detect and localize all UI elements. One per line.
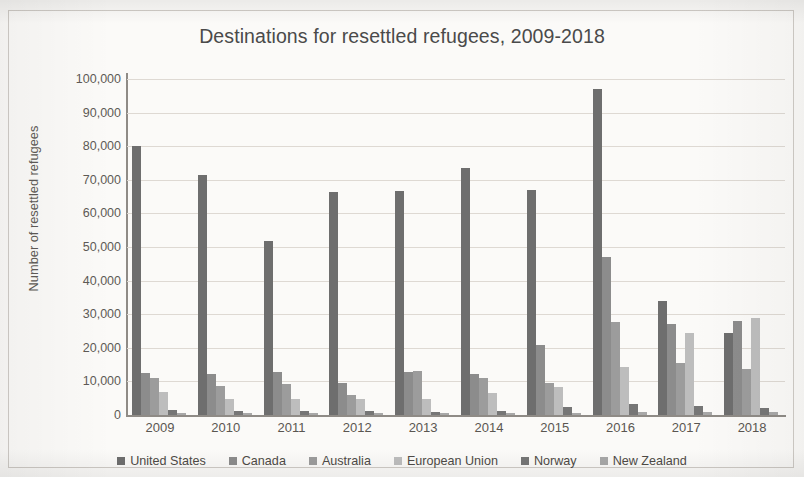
bar[interactable] xyxy=(593,89,602,415)
bar[interactable] xyxy=(536,345,545,415)
bar[interactable] xyxy=(488,393,497,415)
bar[interactable] xyxy=(629,404,638,415)
bar[interactable] xyxy=(703,412,712,415)
x-axis-tick-label: 2018 xyxy=(719,420,785,435)
y-axis-tick-labels: 100,00090,00080,00070,00060,00050,00040,… xyxy=(37,11,121,477)
legend-item[interactable]: Norway xyxy=(521,454,577,468)
bar[interactable] xyxy=(620,367,629,415)
bar[interactable] xyxy=(338,383,347,415)
bar[interactable] xyxy=(461,168,470,415)
bar[interactable] xyxy=(479,378,488,415)
bar[interactable] xyxy=(225,399,234,415)
bar[interactable] xyxy=(264,241,273,415)
x-axis-tick-label: 2010 xyxy=(193,420,259,435)
bar[interactable] xyxy=(751,318,760,415)
bar[interactable] xyxy=(563,407,572,415)
y-axis-tick-label: 100,000 xyxy=(41,72,121,86)
chart-legend: United StatesCanadaAustraliaEuropean Uni… xyxy=(9,454,795,468)
bar[interactable] xyxy=(356,399,365,415)
bar[interactable] xyxy=(760,408,769,415)
chart-frame: Destinations for resettled refugees, 200… xyxy=(8,10,794,468)
bar[interactable] xyxy=(141,373,150,415)
legend-label: United States xyxy=(130,454,206,468)
bar[interactable] xyxy=(365,411,374,415)
bar-group xyxy=(461,79,515,415)
legend-label: New Zealand xyxy=(613,454,687,468)
bar[interactable] xyxy=(273,372,282,415)
legend-item[interactable]: Canada xyxy=(229,454,286,468)
x-axis-tick-label: 2014 xyxy=(456,420,522,435)
bar[interactable] xyxy=(374,413,383,415)
legend-swatch-icon xyxy=(600,457,608,465)
bar[interactable] xyxy=(413,371,422,415)
bar[interactable] xyxy=(602,257,611,415)
bar[interactable] xyxy=(742,369,751,415)
y-axis-title: Number of resettled refugees xyxy=(26,84,41,334)
bar[interactable] xyxy=(769,412,778,415)
bar-group xyxy=(527,79,581,415)
bar[interactable] xyxy=(658,301,667,415)
plot-area xyxy=(127,79,785,415)
bar[interactable] xyxy=(506,413,515,415)
bar[interactable] xyxy=(440,413,449,415)
bar[interactable] xyxy=(431,412,440,415)
bar[interactable] xyxy=(395,191,404,415)
bar[interactable] xyxy=(300,411,309,415)
bar[interactable] xyxy=(404,372,413,415)
bar[interactable] xyxy=(282,384,291,415)
legend-label: Australia xyxy=(322,454,371,468)
x-axis-line xyxy=(126,415,786,417)
y-axis-tick-label: 10,000 xyxy=(41,374,121,388)
bar[interactable] xyxy=(207,374,216,415)
bar[interactable] xyxy=(554,387,563,415)
legend-item[interactable]: United States xyxy=(117,454,206,468)
bar[interactable] xyxy=(234,411,243,415)
bar[interactable] xyxy=(527,190,536,415)
bar[interactable] xyxy=(638,412,647,415)
legend-item[interactable]: Australia xyxy=(309,454,371,468)
bar[interactable] xyxy=(676,363,685,415)
bar[interactable] xyxy=(309,413,318,415)
legend-swatch-icon xyxy=(229,457,237,465)
bar-group xyxy=(198,79,252,415)
bar-group xyxy=(593,79,647,415)
bar[interactable] xyxy=(667,324,676,415)
y-axis-tick-label: 40,000 xyxy=(41,274,121,288)
x-axis-tick-label: 2017 xyxy=(653,420,719,435)
bar[interactable] xyxy=(243,413,252,415)
bar[interactable] xyxy=(347,395,356,415)
x-axis-tick-label: 2012 xyxy=(324,420,390,435)
bar[interactable] xyxy=(177,413,186,415)
x-axis-tick-label: 2011 xyxy=(259,420,325,435)
bar[interactable] xyxy=(329,192,338,415)
bar[interactable] xyxy=(685,333,694,415)
legend-item[interactable]: New Zealand xyxy=(600,454,687,468)
y-axis-tick-label: 20,000 xyxy=(41,341,121,355)
bar[interactable] xyxy=(198,175,207,415)
bar[interactable] xyxy=(159,392,168,415)
bar[interactable] xyxy=(611,322,620,415)
bar-group xyxy=(658,79,712,415)
bar[interactable] xyxy=(724,333,733,415)
bar[interactable] xyxy=(733,321,742,415)
legend-label: European Union xyxy=(407,454,498,468)
bar[interactable] xyxy=(422,399,431,415)
bar-group xyxy=(264,79,318,415)
legend-swatch-icon xyxy=(521,457,529,465)
y-axis-tick-label: 90,000 xyxy=(41,106,121,120)
y-axis-tick-label: 0 xyxy=(41,408,121,422)
bar[interactable] xyxy=(216,386,225,415)
legend-swatch-icon xyxy=(309,457,317,465)
bar[interactable] xyxy=(470,374,479,415)
bar[interactable] xyxy=(150,378,159,415)
bar[interactable] xyxy=(545,383,554,415)
bar[interactable] xyxy=(694,406,703,415)
legend-swatch-icon xyxy=(394,457,402,465)
bar[interactable] xyxy=(291,399,300,415)
bar[interactable] xyxy=(168,410,177,415)
bar[interactable] xyxy=(132,146,141,415)
bar[interactable] xyxy=(572,413,581,415)
bar[interactable] xyxy=(497,411,506,415)
legend-item[interactable]: European Union xyxy=(394,454,498,468)
legend-label: Canada xyxy=(242,454,286,468)
